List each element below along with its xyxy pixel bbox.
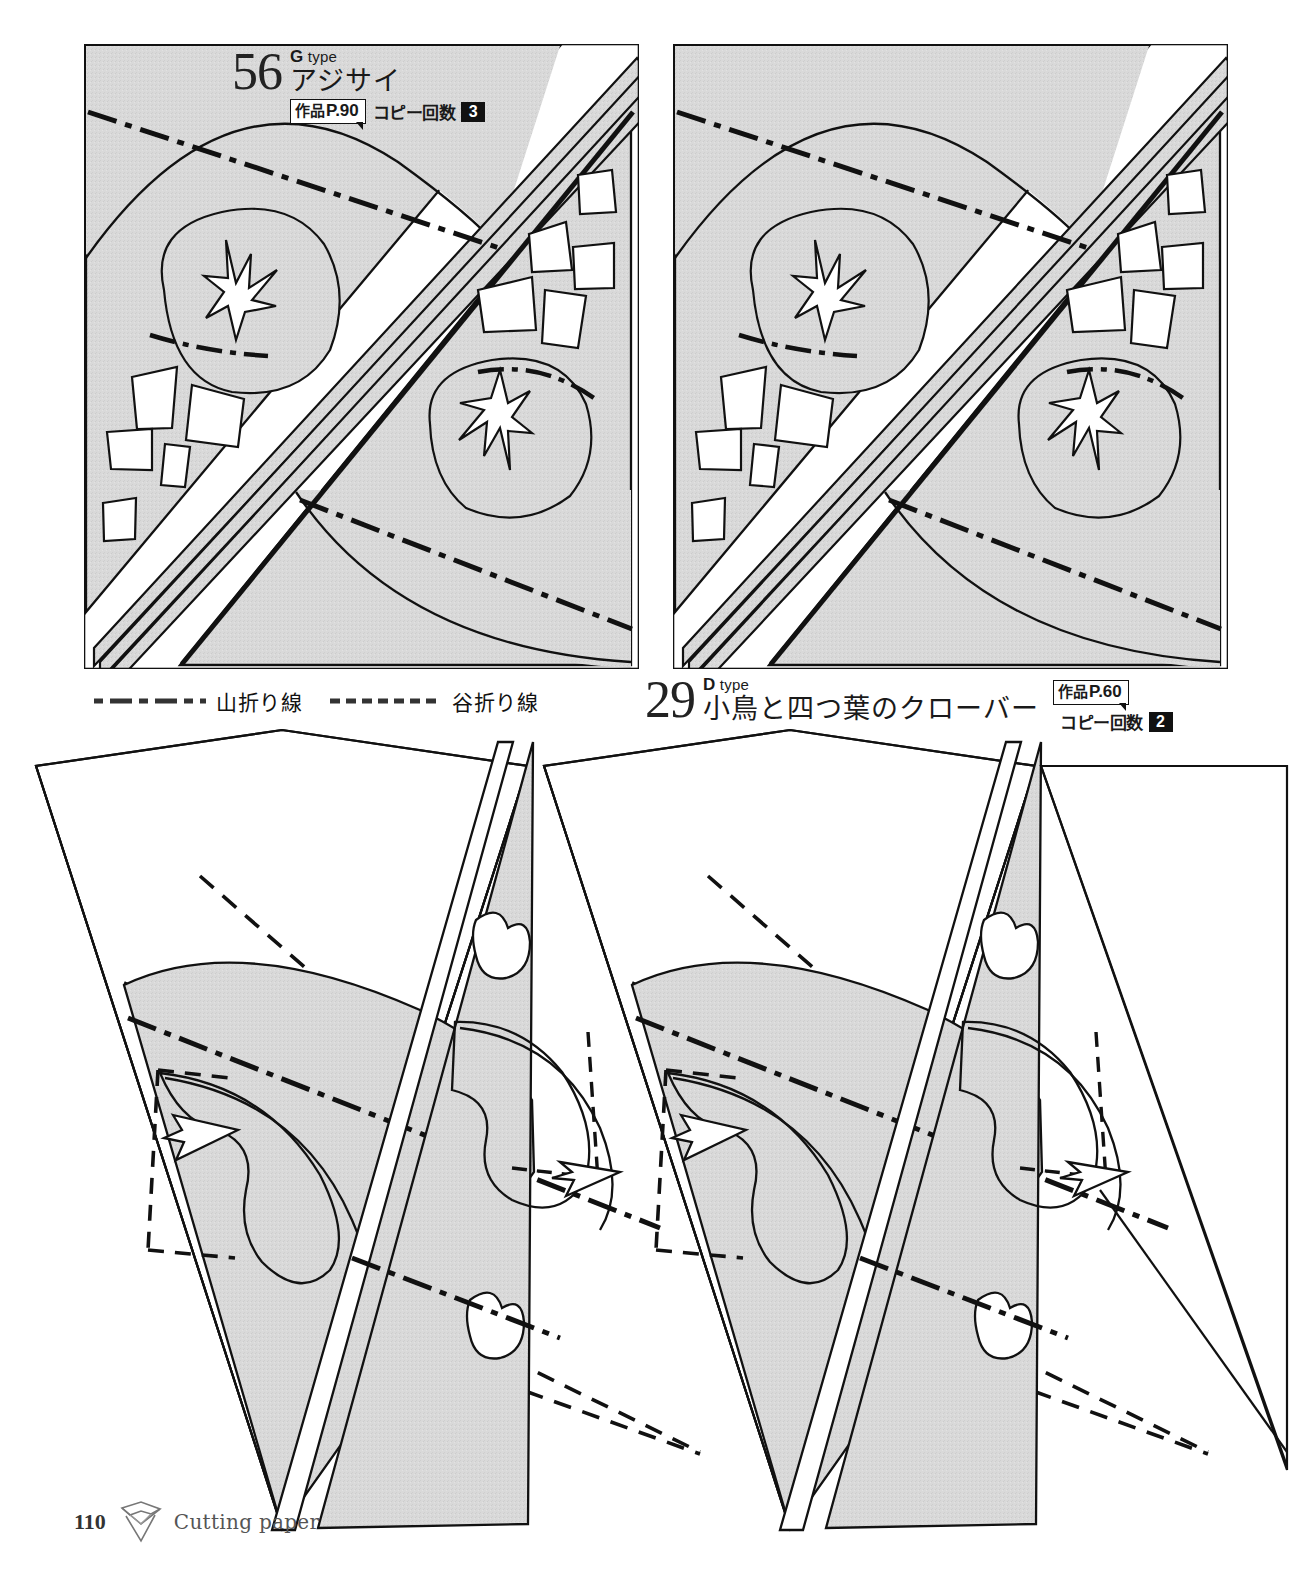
work-page: P.90 — [326, 101, 359, 120]
work-label: 作品 — [295, 102, 325, 120]
copy-count-label: コピー回数 — [373, 99, 456, 124]
legend-label: 谷折り線 — [452, 686, 538, 716]
copy-count-label: コピー回数 — [1060, 709, 1143, 734]
work-page-badge[interactable]: 作品P.60 — [1053, 680, 1129, 705]
pattern-type: D type — [703, 676, 1039, 693]
work-page-badge[interactable]: 作品P.90 — [290, 99, 366, 124]
footer-caption: Cutting paper — [174, 1510, 320, 1534]
folded-paper-icon — [118, 1500, 164, 1544]
type-letter: G — [290, 47, 303, 66]
pattern-56-diagram — [84, 44, 660, 694]
pattern-29-diagram — [36, 730, 1287, 1530]
pattern-number: 29 — [645, 676, 703, 724]
valley-fold-line — [656, 1070, 666, 1250]
legend-item-valley-fold: 谷折り線 — [328, 686, 538, 716]
pattern-number: 56 — [232, 48, 290, 96]
pattern-56-title-block: 56 G type アジサイ 作品P.90 コピー回数 3 — [232, 48, 485, 124]
pattern-artwork — [0, 0, 1302, 1584]
type-word: type — [308, 48, 337, 65]
page-canvas: 56 G type アジサイ 作品P.90 コピー回数 3 — [0, 0, 1302, 1584]
work-page: P.60 — [1089, 682, 1122, 701]
valley-fold-line — [148, 1070, 158, 1250]
legend-item-mountain-fold: 山折り線 — [92, 686, 302, 716]
legend-label: 山折り線 — [216, 686, 302, 716]
copy-count-badge: 3 — [461, 102, 485, 122]
pattern-56-diagram-copy — [673, 44, 1249, 694]
pattern-name: アジサイ — [290, 66, 485, 96]
page-footer: 110 Cutting paper — [74, 1500, 319, 1544]
fold-legend: 山折り線 谷折り線 — [92, 686, 538, 716]
valley-fold-sample — [328, 694, 444, 708]
page-number: 110 — [74, 1509, 106, 1535]
type-word: type — [720, 676, 749, 693]
type-letter: D — [703, 675, 715, 694]
mountain-fold-sample — [92, 694, 208, 708]
copy-count-badge: 2 — [1149, 712, 1173, 732]
pattern-name: 小鳥と四つ葉のクローバー — [703, 694, 1039, 724]
pattern-29-title-block: 29 D type 小鳥と四つ葉のクローバー 作品P.60 コピー回数 2 — [645, 676, 1173, 734]
pattern-type: G type — [290, 48, 485, 65]
work-label: 作品 — [1058, 683, 1088, 701]
